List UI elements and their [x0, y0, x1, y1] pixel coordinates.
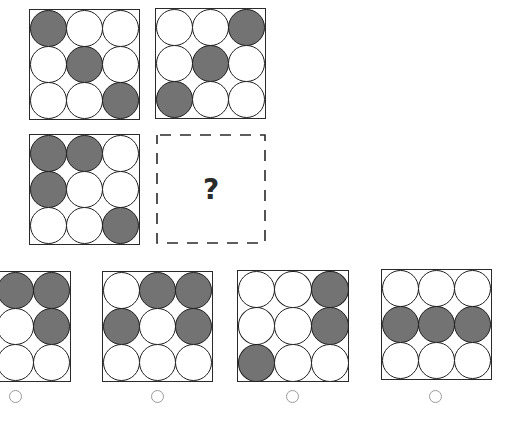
- empty-circle-icon: [33, 344, 70, 381]
- empty-circle-icon: [102, 135, 139, 172]
- empty-circle-icon: [192, 81, 229, 118]
- empty-circle-icon: [274, 271, 312, 309]
- option-a-radio[interactable]: [9, 390, 22, 403]
- option-b-radio[interactable]: [151, 390, 164, 403]
- empty-circle-icon: [418, 270, 455, 307]
- filled-circle-icon: [33, 272, 70, 309]
- filled-circle-icon: [311, 271, 349, 309]
- empty-circle-icon: [139, 344, 176, 381]
- empty-circle-icon: [103, 272, 140, 309]
- filled-circle-icon: [382, 306, 419, 343]
- grid-middle-left: [29, 134, 140, 245]
- filled-circle-icon: [192, 45, 229, 82]
- empty-circle-icon: [0, 344, 34, 381]
- filled-circle-icon: [103, 308, 140, 345]
- empty-circle-icon: [66, 82, 103, 119]
- filled-circle-icon: [454, 306, 491, 343]
- empty-circle-icon: [274, 344, 312, 382]
- filled-circle-icon: [139, 272, 176, 309]
- filled-circle-icon: [175, 308, 212, 345]
- option-b-grid[interactable]: [102, 271, 213, 382]
- empty-circle-icon: [103, 344, 140, 381]
- filled-circle-icon: [33, 308, 70, 345]
- empty-circle-icon: [418, 342, 455, 379]
- filled-circle-icon: [228, 9, 265, 46]
- filled-circle-icon: [30, 10, 67, 47]
- option-d-radio[interactable]: [429, 390, 442, 403]
- filled-circle-icon: [66, 135, 103, 172]
- empty-circle-icon: [30, 46, 67, 83]
- filled-circle-icon: [418, 306, 455, 343]
- empty-circle-icon: [66, 171, 103, 208]
- empty-circle-icon: [102, 171, 139, 208]
- empty-circle-icon: [156, 45, 193, 82]
- option-a-grid[interactable]: [0, 271, 71, 382]
- question-mark: ?: [203, 173, 219, 206]
- empty-circle-icon: [238, 307, 276, 345]
- option-d-grid[interactable]: [381, 269, 492, 380]
- filled-circle-icon: [175, 272, 212, 309]
- empty-circle-icon: [156, 9, 193, 46]
- filled-circle-icon: [102, 82, 139, 119]
- empty-circle-icon: [274, 307, 312, 345]
- empty-circle-icon: [454, 270, 491, 307]
- option-c-radio[interactable]: [286, 390, 299, 403]
- empty-circle-icon: [102, 46, 139, 83]
- empty-circle-icon: [228, 81, 265, 118]
- filled-circle-icon: [102, 207, 139, 244]
- filled-circle-icon: [66, 46, 103, 83]
- empty-circle-icon: [175, 344, 212, 381]
- filled-circle-icon: [156, 81, 193, 118]
- empty-circle-icon: [30, 207, 67, 244]
- option-c-grid[interactable]: [237, 270, 349, 382]
- empty-circle-icon: [66, 207, 103, 244]
- empty-circle-icon: [454, 342, 491, 379]
- grid-top-left: [29, 9, 140, 120]
- empty-circle-icon: [139, 308, 176, 345]
- empty-circle-icon: [382, 270, 419, 307]
- missing-answer-box: ?: [156, 134, 266, 244]
- filled-circle-icon: [30, 171, 67, 208]
- filled-circle-icon: [238, 344, 276, 382]
- empty-circle-icon: [228, 45, 265, 82]
- empty-circle-icon: [382, 342, 419, 379]
- filled-circle-icon: [30, 135, 67, 172]
- empty-circle-icon: [238, 271, 276, 309]
- empty-circle-icon: [311, 344, 349, 382]
- grid-top-right: [155, 8, 266, 119]
- filled-circle-icon: [311, 307, 349, 345]
- empty-circle-icon: [0, 308, 34, 345]
- empty-circle-icon: [102, 10, 139, 47]
- empty-circle-icon: [30, 82, 67, 119]
- filled-circle-icon: [0, 272, 34, 309]
- empty-circle-icon: [66, 10, 103, 47]
- empty-circle-icon: [192, 9, 229, 46]
